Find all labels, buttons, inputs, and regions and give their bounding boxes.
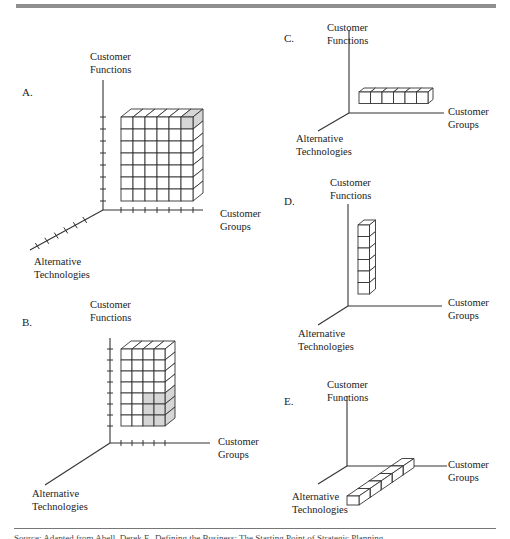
alternative-technologies-axis [318,466,347,484]
cube-front-face [133,141,145,153]
market-definition-diagrams: A.CustomerFunctionsCustomerGroupsAlterna… [0,0,510,539]
technologies-tick [45,238,49,244]
cube-front-face [143,360,154,371]
cube-front-face [132,382,143,393]
cube-front-face [181,117,193,129]
alternative-technologies-label: AlternativeTechnologies [32,488,88,512]
customer-groups-label: CustomerGroups [220,208,261,232]
cube-front-face [181,165,193,177]
cube-front-face [121,404,132,415]
cube-front-face [394,92,406,104]
cube-front-face [145,117,157,129]
cube-front-face [143,393,154,404]
cube-front-face [154,382,165,393]
cube-front-face [169,177,181,189]
alternative-technologies-axis [318,306,348,325]
cube-front-face [132,371,143,382]
alternative-technologies-label: AlternativeTechnologies [292,491,348,515]
customer-groups-label: CustomerGroups [448,106,489,130]
cube-front-face [405,92,417,104]
customer-functions-label: CustomerFunctions [327,379,368,403]
cube-front-face [143,349,154,360]
bottom-rule [14,528,496,529]
cube-front-face [143,404,154,415]
cube-front-face [181,189,193,201]
cube-front-face [133,165,145,177]
alternative-technologies-label: AlternativeTechnologies [298,328,354,352]
cube-front-face [157,189,169,201]
cube-front-face [121,415,132,426]
cube-front-face [121,360,132,371]
customer-functions-label: CustomerFunctions [90,299,131,323]
panel-letter: D. [284,195,295,207]
cube-front-face [132,360,143,371]
technologies-tick [83,217,87,223]
cube-front-face [157,129,169,141]
cube-front-face [169,189,181,201]
alternative-technologies-axis [30,210,103,250]
technologies-tick [64,227,68,233]
panel-a: A.CustomerFunctionsCustomerGroupsAlterna… [22,51,261,280]
cube-front-face [133,117,145,129]
cube-front-face [121,371,132,382]
panel-letter: C. [284,32,294,44]
cube-front-face [132,404,143,415]
cube-front-face [121,129,133,141]
cube-front-face [181,177,193,189]
customer-functions-label: CustomerFunctions [330,177,371,201]
alternative-technologies-label: AlternativeTechnologies [34,256,90,280]
cube-front-face [121,141,133,153]
cube-front-face [121,189,133,201]
cube-front-face [132,415,143,426]
panel-e: E.CustomerFunctionsCustomerGroupsAlterna… [284,379,489,515]
cube-front-face [181,141,193,153]
cube-front-face [145,153,157,165]
cube-front-face [417,92,429,104]
cube-front-face [121,382,132,393]
cube-block [359,88,433,104]
cube-front-face [154,404,165,415]
cube-front-face [358,283,370,295]
cube-front-face [157,117,169,129]
cube-front-face [358,260,370,272]
cube-front-face [358,237,370,249]
cube-front-face [121,153,133,165]
cube-front-face [133,153,145,165]
cube-front-face [154,349,165,360]
cube-front-face [358,271,370,283]
cube-front-face [143,415,154,426]
cube-front-face [133,129,145,141]
cube-front-face [154,415,165,426]
alternative-technologies-axis [45,443,110,485]
panel-d: D.CustomerFunctionsCustomerGroupsAlterna… [284,177,489,352]
cube-front-face [121,393,132,404]
cube-front-face [133,177,145,189]
cube-block [358,220,376,294]
cube-front-face [169,117,181,129]
cube-front-face [145,177,157,189]
cube-front-face [358,225,370,237]
cube-block [121,109,203,201]
cube-front-face [169,165,181,177]
cube-front-face [145,189,157,201]
panel-b: B.CustomerFunctionsCustomerGroupsAlterna… [22,299,259,512]
customer-groups-label: CustomerGroups [218,436,259,460]
cube-front-face [154,360,165,371]
cube-front-face [121,177,133,189]
cube-block [121,341,175,426]
cube-front-face [371,92,383,104]
panel-letter: A. [22,86,33,98]
cube-front-face [181,129,193,141]
cube-front-face [133,189,145,201]
cube-front-face [157,177,169,189]
cube-front-face [121,349,132,360]
cube-front-face [169,153,181,165]
panel-letter: E. [284,395,294,407]
cube-front-face [157,153,169,165]
source-note: Source: Adapted from Abell, Derek F., De… [14,532,496,539]
cube-front-face [132,393,143,404]
cube-front-face [145,141,157,153]
cube-front-face [169,129,181,141]
panel-letter: B. [22,316,32,328]
cube-front-face [132,349,143,360]
